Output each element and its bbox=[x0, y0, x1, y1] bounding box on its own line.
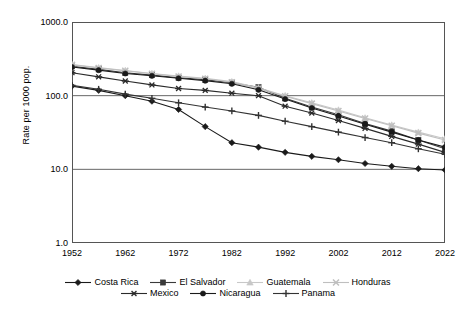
legend-marker-triangle-icon bbox=[237, 277, 263, 288]
data-point-plus bbox=[282, 118, 289, 125]
x-axis-tick-label: 1992 bbox=[265, 248, 305, 258]
plot-area bbox=[72, 22, 445, 243]
data-point-diamond bbox=[309, 153, 315, 159]
legend-item-honduras[interactable]: Honduras bbox=[323, 277, 391, 288]
x-axis-tick-label: 2012 bbox=[372, 248, 412, 258]
data-point-diamond bbox=[282, 149, 288, 155]
x-axis-tick-label: 1952 bbox=[52, 248, 92, 258]
data-point-plus bbox=[255, 112, 262, 119]
data-point-diamond bbox=[175, 106, 181, 112]
data-point-diamond bbox=[335, 157, 341, 163]
data-point-circle bbox=[256, 87, 261, 92]
legend-marker-x-icon bbox=[323, 277, 349, 288]
data-point-circle bbox=[416, 137, 421, 142]
data-point-diamond bbox=[415, 166, 421, 172]
data-point-circle bbox=[201, 291, 206, 296]
x-axis-tick-labels: 19521962197219821992200220122022 bbox=[72, 248, 445, 262]
legend-item-nicaragua[interactable]: Nicaragua bbox=[190, 288, 260, 299]
legend-item-label: Costa Rica bbox=[94, 278, 138, 287]
legend-item-label: Honduras bbox=[352, 278, 391, 287]
data-point-plus bbox=[282, 290, 289, 297]
y-axis-tick-label: 10.0 bbox=[22, 164, 68, 174]
legend-item-label: Panama bbox=[302, 289, 336, 298]
data-point-circle bbox=[203, 78, 208, 83]
legend-item-costa-rica[interactable]: Costa Rica bbox=[65, 277, 138, 288]
data-point-square bbox=[161, 280, 166, 285]
data-point-asterisk bbox=[95, 74, 102, 79]
data-point-asterisk bbox=[148, 82, 155, 87]
legend-item-label: El Salvador bbox=[179, 278, 225, 287]
legend-item-label: Guatemala bbox=[266, 278, 310, 287]
x-axis-tick-label: 2002 bbox=[318, 248, 358, 258]
data-point-circle bbox=[123, 71, 128, 76]
legend-marker-circle-icon bbox=[190, 288, 216, 299]
data-point-circle bbox=[336, 113, 341, 118]
data-point-plus bbox=[308, 123, 315, 130]
data-point-diamond bbox=[75, 279, 81, 285]
legend-item-label: Mexico bbox=[150, 289, 179, 298]
y-axis-tick-label: 100.0 bbox=[22, 91, 68, 101]
data-point-plus bbox=[202, 104, 209, 111]
data-point-circle bbox=[96, 68, 101, 73]
data-point-circle bbox=[362, 122, 367, 127]
data-point-plus bbox=[95, 86, 102, 93]
legend-item-el-salvador[interactable]: El Salvador bbox=[150, 277, 225, 288]
data-point-plus bbox=[335, 129, 342, 136]
data-point-asterisk bbox=[228, 91, 235, 96]
data-point-plus bbox=[362, 134, 369, 141]
x-axis-tick-label: 2022 bbox=[425, 248, 456, 258]
legend-marker-diamond-icon bbox=[65, 277, 91, 288]
data-point-circle bbox=[309, 105, 314, 110]
chart-legend: Costa RicaEl SalvadorGuatemalaHonduras M… bbox=[0, 277, 456, 299]
x-axis-tick-label: 1962 bbox=[105, 248, 145, 258]
y-axis-tick-labels: 1000.0100.010.01.0 bbox=[20, 22, 68, 243]
x-axis-tick-label: 1972 bbox=[159, 248, 199, 258]
data-point-circle bbox=[72, 64, 75, 69]
chart-container: Rate per 1000 pop. 1000.0100.010.01.0 19… bbox=[0, 0, 456, 320]
data-point-diamond bbox=[442, 167, 445, 173]
data-point-circle bbox=[229, 81, 234, 86]
legend-marker-square-icon bbox=[150, 277, 176, 288]
legend-item-guatemala[interactable]: Guatemala bbox=[237, 277, 310, 288]
data-point-plus bbox=[175, 99, 182, 106]
y-axis-tick-label: 1.0 bbox=[22, 238, 68, 248]
plot-frame bbox=[73, 23, 445, 243]
data-point-asterisk bbox=[175, 86, 182, 91]
legend-row-1: Costa RicaEl SalvadorGuatemalaHonduras bbox=[0, 277, 456, 288]
data-point-circle bbox=[176, 76, 181, 81]
data-point-circle bbox=[283, 96, 288, 101]
chart-svg bbox=[72, 22, 445, 243]
legend-marker-asterisk-icon bbox=[121, 288, 147, 299]
x-axis-tick-label: 1982 bbox=[212, 248, 252, 258]
data-point-circle bbox=[149, 73, 154, 78]
data-point-asterisk bbox=[130, 291, 137, 296]
data-point-asterisk bbox=[282, 104, 289, 109]
legend-row-2: MexicoNicaraguaPanama bbox=[0, 288, 456, 299]
legend-item-label: Nicaragua bbox=[219, 289, 260, 298]
data-point-circle bbox=[389, 130, 394, 135]
legend-item-mexico[interactable]: Mexico bbox=[121, 288, 179, 299]
data-point-asterisk bbox=[202, 88, 209, 93]
legend-marker-plus-icon bbox=[273, 288, 299, 299]
data-point-circle bbox=[442, 145, 445, 150]
data-point-diamond bbox=[389, 163, 395, 169]
data-point-plus bbox=[228, 108, 235, 115]
data-point-plus bbox=[388, 139, 395, 146]
data-point-asterisk bbox=[122, 79, 129, 84]
data-point-diamond bbox=[229, 140, 235, 146]
data-point-diamond bbox=[255, 144, 261, 150]
y-axis-tick-label: 1000.0 bbox=[22, 17, 68, 27]
legend-item-panama[interactable]: Panama bbox=[273, 288, 336, 299]
data-point-diamond bbox=[202, 124, 208, 130]
data-point-diamond bbox=[362, 160, 368, 166]
data-point-asterisk bbox=[255, 93, 262, 98]
data-point-asterisk bbox=[308, 111, 315, 116]
